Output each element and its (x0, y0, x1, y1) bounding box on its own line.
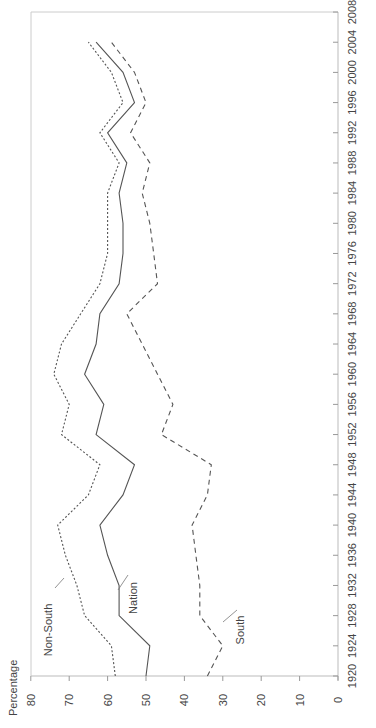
series-label-south: South (234, 616, 246, 645)
year-tick-label: 1944 (346, 483, 358, 507)
year-tick-label: 1928 (346, 603, 358, 627)
year-tick-label: 1984 (346, 181, 358, 205)
series-line-south (111, 42, 222, 676)
year-tick-label: 2004 (346, 30, 358, 54)
value-tick-label: 80 (25, 694, 37, 706)
value-tick-label: 30 (217, 694, 229, 706)
year-tick-label: 1988 (346, 151, 358, 175)
year-tick-label: 1992 (346, 121, 358, 145)
year-tick-label: 1976 (346, 241, 358, 265)
value-tick-label: 20 (255, 694, 267, 706)
year-tick-label: 1920 (346, 664, 358, 688)
series-label-nation: Nation (127, 582, 139, 614)
value-tick-label: 70 (63, 694, 75, 706)
series-label-leader (55, 578, 64, 588)
value-tick-label: 60 (102, 694, 114, 706)
year-tick-label: 2008 (346, 0, 358, 24)
year-tick-label: 1980 (346, 211, 358, 235)
year-tick-label: 1960 (346, 362, 358, 386)
series-line-non-south (54, 42, 123, 676)
series-label-non-south: Non-South (42, 604, 54, 657)
year-tick-label: 1940 (346, 513, 358, 537)
year-tick-label: 1972 (346, 271, 358, 295)
value-tick-label: 50 (140, 694, 152, 706)
year-tick-label: 1956 (346, 392, 358, 416)
value-tick-label: 10 (294, 694, 306, 706)
year-tick-label: 1968 (346, 302, 358, 326)
year-tick-label: 1964 (346, 332, 358, 356)
year-tick-label: 1996 (346, 90, 358, 114)
year-tick-label: 1924 (346, 634, 358, 658)
value-tick-label: 40 (178, 694, 190, 706)
series-line-nation (85, 42, 150, 676)
year-tick-label: 1948 (346, 452, 358, 476)
year-tick-label: 1952 (346, 422, 358, 446)
year-tick-label: 2000 (346, 60, 358, 84)
value-tick-label: 0 (332, 697, 344, 703)
year-tick-label: 1936 (346, 543, 358, 567)
turnout-line-chart: 0102030405060708019201924192819321936194… (0, 0, 376, 728)
y-axis-title: Percentage (7, 660, 19, 716)
year-tick-label: 1932 (346, 573, 358, 597)
